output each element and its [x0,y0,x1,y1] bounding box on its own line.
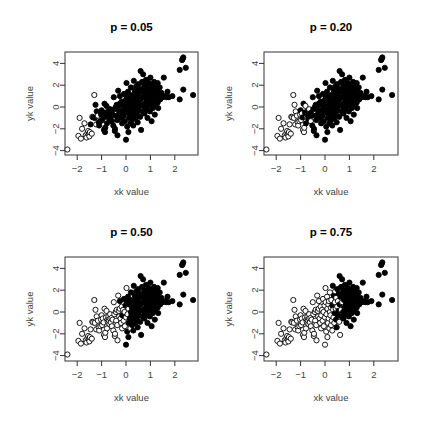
filled-point [334,120,339,125]
filled-point [356,85,361,90]
filled-point [323,80,328,85]
filled-point [340,277,345,282]
filled-point [380,292,385,297]
open-point [65,147,70,152]
filled-point [376,272,381,277]
open-point [89,131,94,136]
open-point [287,327,292,332]
figure: p = 0.05−2−1012−4−2024xk valueyk valuep … [0,0,421,428]
x-tick-label: 1 [347,163,352,174]
open-point [82,121,87,126]
filled-point [115,133,120,138]
open-point [88,327,93,332]
open-point [77,115,82,120]
open-point [288,336,293,341]
filled-point [177,302,182,307]
open-point [281,121,286,126]
filled-point [376,302,381,307]
y-tick-label: −2 [249,123,260,134]
filled-point [369,94,374,99]
y-tick-label: 2 [249,83,260,88]
points [65,55,196,152]
y-tick-label: 4 [249,266,260,271]
open-point [78,136,83,141]
open-point [264,147,269,152]
filled-point [322,137,327,142]
x-tick-label: −1 [295,163,306,174]
open-point [279,126,284,131]
open-point [281,326,286,331]
filled-point [126,130,131,135]
open-point [276,115,281,120]
filled-point [310,95,315,100]
filled-point [161,75,166,80]
y-axis-label: yk value [24,86,35,121]
open-point [292,307,297,312]
filled-point [181,260,186,265]
x-tick-label: 1 [148,163,153,174]
filled-point [369,299,374,304]
filled-point [382,65,387,70]
open-point [112,331,117,336]
open-point [93,307,98,312]
panel-4: p = 0.75−2−1012−4−2024xk valueyk value [223,226,398,403]
y-tick-label: −2 [50,123,61,134]
filled-point [325,130,330,135]
filled-point [338,127,343,132]
filled-point [380,55,385,60]
filled-point [376,67,381,72]
filled-point [135,325,140,330]
open-point [92,92,97,97]
y-axis-label: yk value [24,292,35,327]
filled-point [152,112,157,117]
filled-point [311,126,316,131]
open-point [80,126,85,131]
panel-3: p = 0.50−2−1012−4−2024xk valueyk value [24,226,198,403]
filled-point [170,299,175,304]
filled-point [165,294,170,299]
y-tick-label: 0 [249,104,260,109]
filled-point [149,119,154,124]
filled-point [355,311,360,316]
filled-point [88,122,93,127]
open-point [287,122,292,127]
filled-point [116,88,121,93]
filled-point [165,89,170,94]
filled-point [315,88,320,93]
y-tick-label: −4 [249,145,260,156]
open-point [288,131,293,136]
x-tick-label: −2 [72,369,83,380]
filled-point [382,270,387,275]
y-tick-label: 2 [50,288,61,293]
filled-point [347,280,352,285]
filled-point [380,87,385,92]
filled-point [390,297,395,302]
filled-point [340,72,345,77]
filled-point [347,75,352,80]
filled-point [111,95,116,100]
open-point [315,293,320,298]
filled-point [183,65,188,70]
filled-point [348,324,353,329]
filled-point [93,102,98,107]
points [264,260,395,357]
open-point [264,352,269,357]
filled-point [351,112,356,117]
panel-2: p = 0.20−2−1012−4−2024xk valueyk value [223,21,398,197]
open-point [311,331,316,336]
x-tick-label: −2 [72,163,83,174]
x-tick-label: 0 [322,163,327,174]
open-point [325,335,330,340]
filled-point [191,92,196,97]
y-tick-label: −4 [249,350,260,361]
filled-point [177,272,182,277]
x-tick-label: −1 [96,369,107,380]
open-point [115,338,120,343]
y-tick-label: 2 [249,288,260,293]
y-tick-label: 0 [50,104,61,109]
x-tick-label: 0 [322,369,327,380]
filled-point [360,280,365,285]
filled-point [123,137,128,142]
filled-point [124,80,129,85]
filled-point [170,94,175,99]
